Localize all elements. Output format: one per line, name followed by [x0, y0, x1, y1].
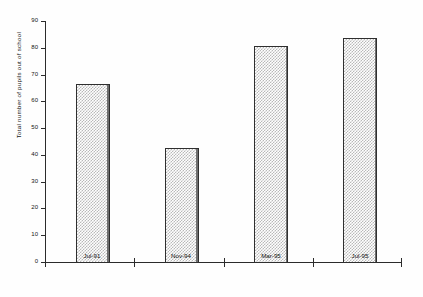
y-tick-label-90: 90 [31, 17, 38, 23]
y-tick-90: 90 [41, 21, 46, 22]
y-tick-label-80: 80 [31, 44, 38, 50]
x-tick-boundary-0 [45, 258, 46, 267]
y-tick-60: 60 [41, 101, 46, 102]
y-tick-30: 30 [41, 182, 46, 183]
y-tick-80: 80 [41, 48, 46, 49]
bar-mar-95 [254, 46, 288, 263]
bar-jul-91 [76, 84, 110, 263]
x-tick-boundary-1 [134, 258, 135, 267]
x-tick-boundary-2 [224, 258, 225, 267]
y-tick-50: 50 [41, 128, 46, 129]
x-tick-boundary-4 [401, 258, 402, 267]
y-tick-label-40: 40 [31, 151, 38, 157]
y-tick-10: 10 [41, 235, 46, 236]
bar-jul-95 [343, 38, 377, 263]
y-tick-40: 40 [41, 155, 46, 156]
x-category-label-jul-95: Jul-95 [352, 252, 369, 259]
y-tick-label-10: 10 [31, 231, 38, 237]
y-axis-line [45, 22, 46, 263]
x-category-label-nov-94: Nov-94 [171, 252, 191, 259]
plot-area: 0 10 20 30 40 50 60 70 80 90 [45, 22, 402, 263]
y-tick-label-70: 70 [31, 71, 38, 77]
y-tick-20: 20 [41, 208, 46, 209]
y-axis-title: Total number of pupils out of school [16, 20, 22, 150]
y-tick-70: 70 [41, 75, 46, 76]
y-tick-label-30: 30 [31, 178, 38, 184]
x-category-label-jul-91: Jul-91 [84, 252, 101, 259]
y-tick-label-60: 60 [31, 97, 38, 103]
bar-nov-94 [165, 148, 199, 263]
x-tick-boundary-3 [313, 258, 314, 267]
bar-chart: Total number of pupils out of school 0 1… [0, 0, 423, 297]
x-category-label-mar-95: Mar-95 [261, 252, 281, 259]
y-tick-label-20: 20 [31, 204, 38, 210]
y-tick-label-50: 50 [31, 124, 38, 130]
y-tick-label-0: 0 [35, 258, 38, 264]
